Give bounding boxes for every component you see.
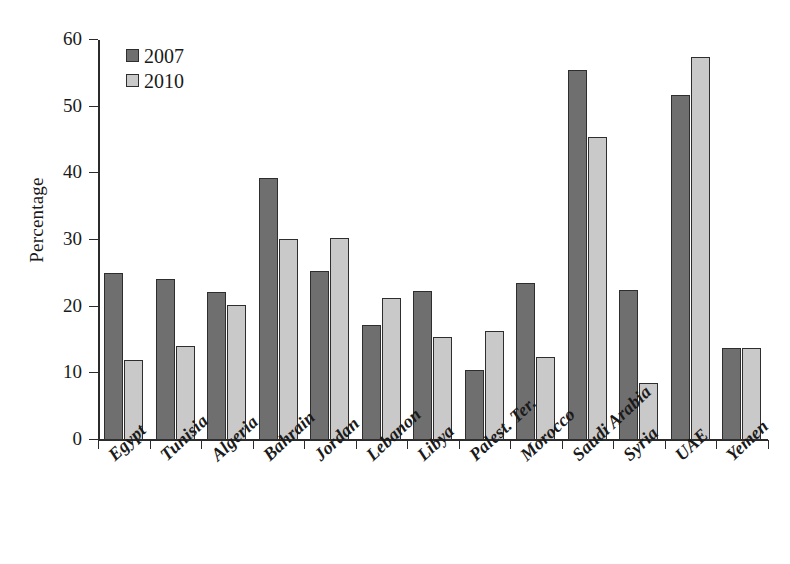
y-tick: 60: [89, 39, 98, 40]
legend-swatch-icon: [126, 49, 139, 62]
bar-2010: [588, 137, 607, 440]
bar-group-item: [459, 40, 511, 440]
y-tick: 20: [89, 306, 98, 307]
legend-label: 2007: [144, 46, 184, 66]
x-tick: [98, 440, 99, 449]
bar-group-item: [150, 40, 202, 440]
legend-item: 2010: [126, 68, 236, 93]
y-tick-label: 0: [73, 428, 83, 450]
y-tick-label: 30: [63, 228, 82, 250]
y-tick-label: 50: [63, 95, 82, 117]
y-tick-label: 20: [63, 295, 82, 317]
x-tick: [716, 440, 717, 449]
bar-2007: [104, 273, 123, 440]
bar-2010: [691, 57, 710, 440]
bar-2007: [465, 370, 484, 440]
x-tick: [356, 440, 357, 449]
bar-2007: [362, 325, 381, 440]
legend-item: 2007: [126, 43, 236, 68]
y-tick: 50: [89, 106, 98, 107]
y-tick-label: 40: [63, 161, 82, 183]
x-tick: [562, 440, 563, 449]
legend: 2007 2010: [126, 43, 236, 93]
legend-swatch-icon: [126, 74, 139, 87]
x-tick: [201, 440, 202, 449]
y-tick: 10: [89, 372, 98, 373]
x-tick: [407, 440, 408, 449]
bar-2010: [330, 238, 349, 440]
y-tick: 0: [89, 439, 98, 440]
y-axis-title: Percentage: [26, 20, 52, 420]
bar-group-item: [613, 40, 665, 440]
bar-2010: [279, 239, 298, 440]
bar-group-item: [716, 40, 768, 440]
bar-group-item: [407, 40, 459, 440]
bar-group-item: [356, 40, 408, 440]
y-tick-label: 60: [63, 28, 82, 50]
bar-group-item: [510, 40, 562, 440]
bar-group-item: [201, 40, 253, 440]
bar-2007: [207, 292, 226, 440]
legend-label: 2010: [144, 71, 184, 91]
x-tick: [768, 440, 769, 449]
bar-group-item: [665, 40, 717, 440]
x-tick: [304, 440, 305, 449]
bar-group-item: [253, 40, 305, 440]
x-tick: [459, 440, 460, 449]
x-tick: [150, 440, 151, 449]
x-axis-labels: EgyptTunisiaAlgeriaBahrainJordanLebanonL…: [98, 450, 768, 560]
x-tick: [665, 440, 666, 449]
y-tick: 40: [89, 172, 98, 173]
bar-2007: [568, 70, 587, 440]
plot-area: 0102030405060: [98, 40, 768, 440]
x-tick: [253, 440, 254, 449]
x-tick: [613, 440, 614, 449]
y-tick: 30: [89, 239, 98, 240]
y-tick-label: 10: [63, 361, 82, 383]
bar-group-item: [98, 40, 150, 440]
bar-group-item: [562, 40, 614, 440]
bar-2007: [259, 178, 278, 440]
bar-2007: [156, 279, 175, 440]
bar-2007: [671, 95, 690, 440]
bar-2007: [722, 348, 741, 440]
bar-group-item: [304, 40, 356, 440]
chart-figure: Percentage 0102030405060 EgyptTunisiaAlg…: [0, 0, 790, 564]
x-tick: [510, 440, 511, 449]
